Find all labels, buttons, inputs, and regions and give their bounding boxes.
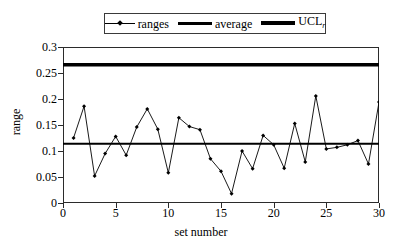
plot-canvas	[63, 47, 379, 203]
x-axis-tick-label: 0	[48, 207, 78, 219]
y-axis-tick-mark	[58, 99, 63, 100]
data-point-marker	[377, 100, 379, 104]
data-point-marker	[366, 162, 370, 166]
data-point-marker	[230, 192, 234, 196]
data-point-marker	[156, 127, 160, 131]
y-axis-tick-mark	[58, 151, 63, 152]
data-point-marker	[303, 160, 307, 164]
x-axis-tick-label: 20	[259, 207, 289, 219]
ranges-series-line	[74, 96, 379, 194]
x-axis-tick-mark	[326, 203, 327, 208]
x-axis-tick-mark	[221, 203, 222, 208]
x-axis-tick-mark	[379, 203, 380, 208]
legend-label-ranges: ranges	[138, 18, 169, 30]
data-point-marker	[293, 121, 297, 125]
legend-label-average: average	[215, 18, 252, 30]
x-axis-title: set number	[0, 226, 402, 238]
y-axis-tick-mark	[58, 125, 63, 126]
data-point-marker	[198, 128, 202, 132]
data-point-marker	[103, 152, 107, 156]
data-point-marker	[82, 104, 86, 108]
x-axis-tick-label: 15	[206, 207, 236, 219]
legend-label-ucl: UCLr	[298, 15, 325, 32]
data-point-marker	[240, 149, 244, 153]
legend-entry-ranges: ranges	[105, 18, 169, 30]
range-control-chart: ranges average UCLr 00.050.10.150.20.250…	[0, 0, 402, 252]
data-point-marker	[114, 134, 118, 138]
data-point-marker	[335, 145, 339, 149]
y-axis-tick-mark	[58, 47, 63, 48]
x-axis-tick-label: 30	[364, 207, 394, 219]
chart-legend: ranges average UCLr	[104, 13, 326, 34]
legend-swatch-ucl-icon	[261, 19, 295, 27]
y-axis-tick-label: 0.05	[5, 171, 63, 183]
data-point-marker	[356, 139, 360, 143]
data-point-marker	[93, 174, 97, 178]
x-axis-tick-label: 5	[101, 207, 131, 219]
legend-entry-ucl: UCLr	[261, 15, 325, 32]
y-axis-tick-label: 0.25	[5, 67, 63, 79]
legend-swatch-average-icon	[178, 20, 212, 27]
x-axis-tick-label: 25	[311, 207, 341, 219]
y-axis-title: range	[10, 92, 22, 152]
x-axis-tick-mark	[63, 203, 64, 208]
y-axis-tick-mark	[58, 177, 63, 178]
data-point-marker	[251, 167, 255, 171]
y-axis-tick-mark	[58, 73, 63, 74]
legend-label-ucl-subscript: r	[322, 21, 325, 30]
data-point-marker	[72, 136, 76, 140]
data-point-marker	[124, 153, 128, 157]
x-axis-tick-mark	[116, 203, 117, 208]
data-point-marker	[145, 107, 149, 111]
legend-swatch-ranges-icon	[105, 20, 135, 27]
x-axis-tick-mark	[274, 203, 275, 208]
data-point-marker	[314, 94, 318, 98]
legend-entry-average: average	[178, 18, 252, 30]
data-point-marker	[135, 125, 139, 129]
data-point-marker	[282, 166, 286, 170]
data-point-marker	[324, 147, 328, 151]
data-point-marker	[166, 171, 170, 175]
x-axis-tick-label: 10	[153, 207, 183, 219]
x-axis-tick-mark	[168, 203, 169, 208]
y-axis-tick-label: 0.3	[5, 41, 63, 53]
legend-label-ucl-text: UCL	[298, 14, 322, 28]
